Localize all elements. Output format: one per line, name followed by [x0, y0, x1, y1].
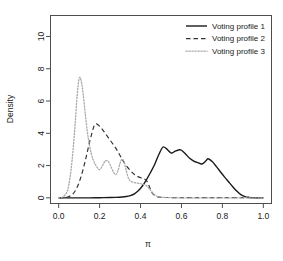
- legend-label-3: Voting profile 3: [212, 47, 265, 56]
- legend-label-2: Voting profile 2: [212, 34, 265, 43]
- x-tick-label: 0.4: [135, 211, 147, 221]
- y-tick-label: 10: [37, 31, 47, 41]
- x-tick-label: 0.2: [94, 211, 106, 221]
- legend-label-1: Voting profile 1: [212, 22, 265, 31]
- y-tick-label: 2: [37, 163, 47, 168]
- x-axis-title: π: [145, 239, 151, 249]
- y-tick-label: 6: [37, 98, 47, 103]
- y-axis-title: Density: [5, 94, 15, 123]
- chart-legend: Voting profile 1Voting profile 2Voting p…: [186, 22, 265, 56]
- x-tick-label: 0.0: [53, 211, 65, 221]
- x-tick-label: 1.0: [257, 211, 269, 221]
- chart-canvas: 0.00.20.40.60.81.0 0246810 π Density Vot…: [0, 0, 283, 261]
- density-plot-figure: 0.00.20.40.60.81.0 0246810 π Density Vot…: [0, 0, 283, 261]
- x-tick-label: 0.8: [216, 211, 228, 221]
- y-tick-label: 4: [37, 131, 47, 136]
- y-tick-label: 0: [37, 195, 47, 200]
- y-tick-label: 8: [37, 66, 47, 71]
- x-tick-label: 0.6: [176, 211, 188, 221]
